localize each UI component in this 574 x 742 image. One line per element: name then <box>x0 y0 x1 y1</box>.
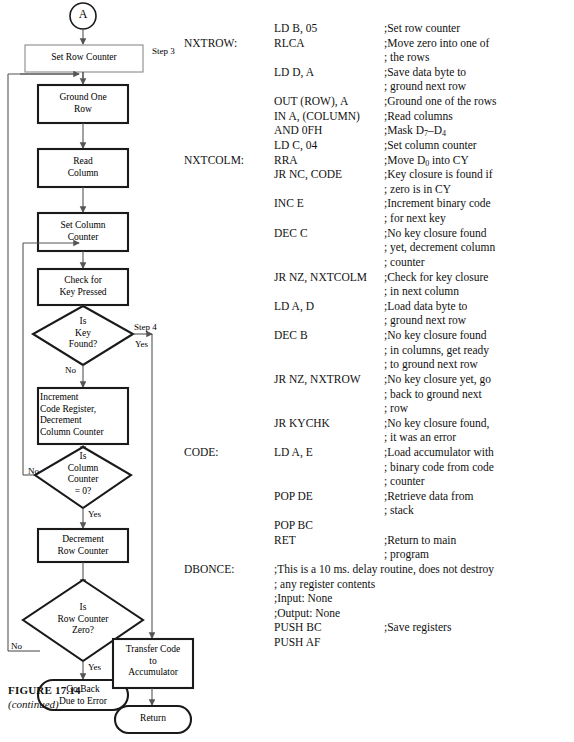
listing-comment: ;Ground one of the rows <box>384 95 574 107</box>
connector-a-circle <box>70 3 96 29</box>
listing-row: ; zero is in CY <box>184 183 574 198</box>
listing-mnemonic: PUSH BC <box>274 621 384 633</box>
node-return <box>115 706 191 733</box>
assembly-listing: LD B, 05;Set row counterNXTROW:RLCA;Move… <box>184 0 574 742</box>
listing-mnemonic: JR NZ, NXTROW <box>274 373 384 385</box>
listing-mnemonic: INC E <box>274 197 384 209</box>
listing-comment: ; zero is in CY <box>384 183 574 195</box>
listing-mnemonic: LD C, 04 <box>274 139 384 151</box>
listing-mnemonic: AND 0FH <box>274 124 384 136</box>
node-increment-code-register <box>38 388 128 444</box>
listing-comment: ; the rows <box>384 51 574 63</box>
listing-row: INC E;Increment binary code <box>184 197 574 212</box>
listing-row: LD B, 05;Set row counter <box>184 22 574 37</box>
listing-comment: ; counter <box>384 256 574 268</box>
annotation-step-3: Step 3 <box>152 46 175 56</box>
listing-comment: ;Move D0 into CY <box>384 154 574 168</box>
listing-row: ;Output: None <box>184 607 574 622</box>
listing-row: DBONCE:;This is a 10 ms. delay routine, … <box>184 563 574 578</box>
listing-comment: ; to ground next row <box>384 358 574 370</box>
listing-row: ; stack <box>184 504 574 519</box>
listing-comment: ;Save data byte to <box>384 66 574 78</box>
listing-mnemonic: IN A, (COLUMN) <box>274 110 384 122</box>
node-is-column-counter-zero <box>35 447 131 508</box>
listing-row: JR NZ, NXTROW;No key closure yet, go <box>184 373 574 388</box>
listing-row: ; it was an error <box>184 431 574 446</box>
listing-row: POP BC <box>184 519 574 534</box>
listing-comment: ; binary code from code <box>384 461 574 473</box>
listing-mnemonic: POP BC <box>274 519 384 531</box>
listing-mnemonic: RET <box>274 534 384 546</box>
branch-label-key-found-yes: Yes <box>135 339 148 349</box>
listing-row: ; yet, decrement column <box>184 241 574 256</box>
node-decrement-row-counter <box>38 529 128 562</box>
listing-label: NXTCOLM: <box>184 154 270 166</box>
listing-comment: ;Move zero into one of <box>384 37 574 49</box>
listing-mnemonic: LD B, 05 <box>274 22 384 34</box>
listing-comment: ; yet, decrement column <box>384 241 574 253</box>
listing-row: ; for next key <box>184 212 574 227</box>
listing-comment: ;Save registers <box>384 621 574 633</box>
listing-mnemonic: OUT (ROW), A <box>274 95 384 107</box>
listing-comment: ;No key closure found <box>384 227 574 239</box>
listing-comment: ; back to ground next <box>384 388 574 400</box>
listing-mnemonic: JR KYCHK <box>274 417 384 429</box>
branch-label-column-counter-yes: Yes <box>88 509 101 519</box>
listing-row: NXTCOLM:RRA;Move D0 into CY <box>184 154 574 169</box>
branch-label-row-counter-yes: Yes <box>88 662 101 672</box>
node-transfer-code <box>113 639 193 688</box>
listing-row: ; counter <box>184 475 574 490</box>
listing-row: OUT (ROW), A;Ground one of the rows <box>184 95 574 110</box>
listing-row: LD A, D;Load data byte to <box>184 300 574 315</box>
branch-label-column-counter-no: No <box>28 466 39 476</box>
listing-row: ; in next column <box>184 285 574 300</box>
listing-comment: ;No key closure found, <box>384 417 574 429</box>
listing-comment: ; in columns, get ready <box>384 344 574 356</box>
listing-mnemonic: DEC B <box>274 329 384 341</box>
listing-comment: ;Load data byte to <box>384 300 574 312</box>
listing-comment: ; ground next row <box>384 80 574 92</box>
branch-label-row-counter-no: No <box>11 641 22 651</box>
listing-mnemonic: POP DE <box>274 490 384 502</box>
listing-comment: ; ground next row <box>384 314 574 326</box>
listing-comment: ; counter <box>384 475 574 487</box>
node-is-key-found <box>33 306 133 365</box>
listing-comment: ;Load accumulator with <box>384 446 574 458</box>
listing-row: RET;Return to main <box>184 534 574 549</box>
listing-row: ; any register contents <box>184 578 574 593</box>
listing-comment: ;Set column counter <box>384 139 574 151</box>
listing-row: JR NZ, NXTCOLM;Check for key closure <box>184 271 574 286</box>
listing-row: IN A, (COLUMN);Read columns <box>184 110 574 125</box>
listing-row: ; binary code from code <box>184 461 574 476</box>
listing-comment: ;Set row counter <box>384 22 574 34</box>
listing-row: DEC C;No key closure found <box>184 227 574 242</box>
listing-mnemonic: PUSH AF <box>274 636 384 648</box>
branch-label-key-found-no: No <box>65 365 76 375</box>
listing-comment: ;Read columns <box>384 110 574 122</box>
listing-comment: ; row <box>384 402 574 414</box>
listing-comment: ; program <box>384 548 574 560</box>
listing-row: NXTROW:RLCA;Move zero into one of <box>184 37 574 52</box>
listing-mnemonic: ;This is a 10 ms. delay routine, does no… <box>274 563 574 575</box>
node-set-column-counter <box>38 213 128 251</box>
listing-comment: ;Retrieve data from <box>384 490 574 502</box>
listing-row: ; row <box>184 402 574 417</box>
listing-label: DBONCE: <box>184 563 270 575</box>
listing-row: POP DE;Retrieve data from <box>184 490 574 505</box>
figure-title: FIGURE 17.14 <box>8 684 81 698</box>
listing-row: ; to ground next row <box>184 358 574 373</box>
listing-comment: ;No key closure yet, go <box>384 373 574 385</box>
listing-row: LD C, 04;Set column counter <box>184 139 574 154</box>
listing-row: ;Input: None <box>184 592 574 607</box>
listing-mnemonic: RLCA <box>274 37 384 49</box>
node-ground-one-row <box>38 85 128 123</box>
listing-mnemonic: LD A, D <box>274 300 384 312</box>
listing-comment: ;Mask D7–D4 <box>384 124 574 138</box>
listing-mnemonic: JR NC, CODE <box>274 168 384 180</box>
listing-comment: ; stack <box>384 504 574 516</box>
listing-mnemonic: JR NZ, NXTCOLM <box>274 271 384 283</box>
listing-mnemonic: DEC C <box>274 227 384 239</box>
listing-row: PUSH AF <box>184 636 574 651</box>
annotation-step-4: Step 4 <box>134 322 157 332</box>
listing-row: CODE:LD A, E;Load accumulator with <box>184 446 574 461</box>
